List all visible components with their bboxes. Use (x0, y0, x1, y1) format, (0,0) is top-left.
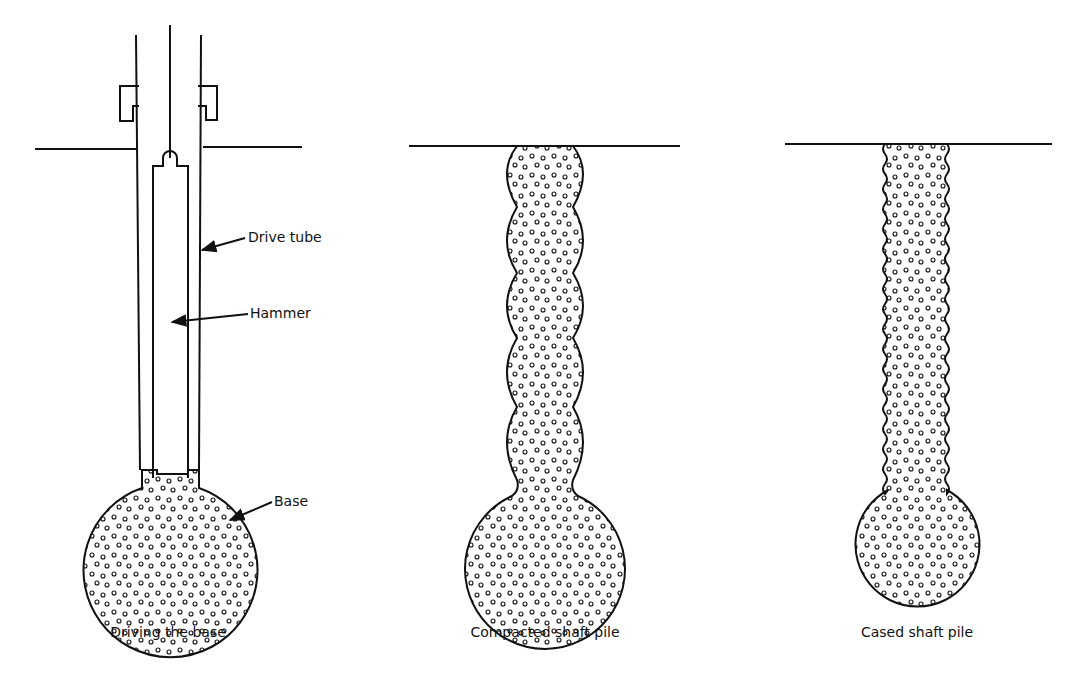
panel-compacted-shaft (409, 146, 680, 649)
hammer-label: Hammer (250, 305, 311, 321)
base-arrow (230, 502, 272, 520)
base-label: Base (274, 493, 308, 509)
panel-cased-shaft (785, 144, 1052, 607)
caption-cased-shaft: Cased shaft pile (861, 624, 973, 640)
cased-pile-body (856, 144, 980, 607)
drive-tube-arrow (202, 238, 245, 250)
caption-compacted-shaft: Compacted shaft pile (470, 624, 619, 640)
caption-driving-base: Driving the base (110, 624, 226, 640)
hammer-arrow (172, 314, 248, 322)
drive-tube-left-wall (136, 35, 140, 470)
panel-driving-base (35, 25, 302, 657)
compacted-pile-body (465, 146, 625, 649)
hammer (153, 151, 188, 478)
drive-tube-right-wall (199, 35, 201, 470)
drive-tube-label: Drive tube (248, 229, 322, 245)
